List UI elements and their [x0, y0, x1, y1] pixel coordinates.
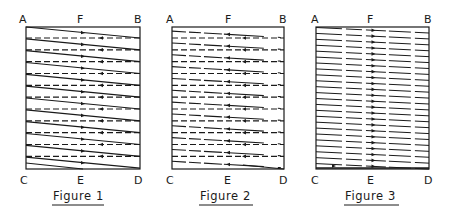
label-f: F — [225, 13, 231, 26]
label-f: F — [77, 13, 83, 26]
arrow-left-icon — [226, 80, 230, 84]
arrow-left-icon — [99, 95, 103, 99]
arrow-right-icon — [372, 129, 376, 133]
arrow-right-icon — [372, 117, 376, 121]
arrow-left-icon — [99, 155, 103, 159]
figure-3: A F B C E D Figure 3 — [311, 13, 432, 205]
arrow-right-icon — [372, 123, 376, 127]
arrow-left-icon — [99, 131, 103, 135]
label-b: B — [424, 13, 432, 26]
arrow-left-icon — [226, 139, 230, 143]
arrow-left-icon — [242, 107, 246, 111]
figure-2: A F B C E D Figure 2 — [166, 13, 287, 205]
label-a: A — [19, 13, 27, 26]
arrow-left-icon — [99, 107, 103, 111]
label-a: A — [311, 13, 319, 26]
arrow-right-icon — [372, 82, 376, 86]
boundary-box — [172, 27, 284, 169]
arrow-left-icon — [226, 127, 230, 131]
figure-caption: Figure 2 — [200, 189, 251, 203]
arrow-left-icon — [226, 163, 230, 167]
arrow-left-icon — [226, 151, 230, 155]
figure-caption: Figure 1 — [53, 189, 104, 203]
arrow-left-icon — [99, 143, 103, 147]
figure-1: A F B C E D Figure 1 — [19, 13, 142, 205]
arrow-left-icon — [226, 56, 230, 60]
arrow-left-icon — [99, 119, 103, 123]
arrow-left-icon — [242, 36, 246, 40]
arrow-right-icon — [372, 147, 376, 151]
arrow-right-icon — [372, 40, 376, 44]
arrow-right-icon — [372, 76, 376, 80]
arrow-right-icon — [372, 58, 376, 62]
label-d: D — [279, 174, 287, 187]
figure-caption: Figure 3 — [345, 189, 396, 203]
arrow-left-icon — [226, 33, 230, 37]
arrow-right-icon — [372, 99, 376, 103]
arrow-right-icon — [372, 46, 376, 50]
label-e: E — [77, 174, 84, 187]
arrow-right-icon — [372, 135, 376, 139]
arrow-left-icon — [226, 44, 230, 48]
scan-lines — [316, 27, 429, 169]
label-c: C — [311, 174, 319, 187]
arrow-right-icon — [372, 64, 376, 68]
arrow-left-icon — [242, 155, 246, 159]
arrow-right-icon — [372, 28, 376, 32]
arrow-right-icon — [372, 141, 376, 145]
arrow-right-icon — [372, 88, 376, 92]
arrow-right-icon — [372, 159, 376, 163]
arrow-right-icon — [372, 153, 376, 157]
arrow-left-icon — [226, 92, 230, 96]
arrow-right-icon — [372, 105, 376, 109]
arrow-left-icon — [242, 95, 246, 99]
arrow-left-icon — [226, 115, 230, 119]
label-e: E — [367, 174, 374, 187]
scan-lines — [26, 27, 140, 169]
arrow-right-icon — [372, 111, 376, 115]
label-f: F — [367, 13, 373, 26]
label-d: D — [424, 174, 432, 187]
arrow-right-icon — [372, 93, 376, 97]
arrow-left-icon — [99, 72, 103, 76]
arrow-left-icon — [99, 48, 103, 52]
scan-pattern-diagram: A F B C E D Figure 1 A F B C E D Figure … — [0, 0, 454, 217]
label-e: E — [224, 174, 231, 187]
arrow-left-icon — [226, 104, 230, 108]
arrow-left-icon — [242, 48, 246, 52]
arrow-left-icon — [226, 68, 230, 72]
label-a: A — [166, 13, 174, 26]
label-c: C — [20, 174, 28, 187]
arrow-left-icon — [99, 84, 103, 88]
label-d: D — [134, 174, 142, 187]
arrow-left-icon — [242, 60, 246, 64]
arrow-right-icon — [372, 34, 376, 38]
arrow-left-icon — [242, 84, 246, 88]
scan-lines — [172, 27, 284, 169]
arrow-left-icon — [242, 119, 246, 123]
arrow-right-icon — [372, 52, 376, 56]
arrow-left-icon — [99, 60, 103, 64]
label-b: B — [279, 13, 287, 26]
solid-scan-line — [26, 163, 83, 169]
label-b: B — [134, 13, 142, 26]
label-c: C — [166, 174, 174, 187]
arrow-left-icon — [242, 72, 246, 76]
arrow-right-icon — [372, 70, 376, 74]
arrow-left-icon — [99, 36, 103, 40]
arrow-left-icon — [242, 131, 246, 135]
arrow-left-icon — [242, 143, 246, 147]
